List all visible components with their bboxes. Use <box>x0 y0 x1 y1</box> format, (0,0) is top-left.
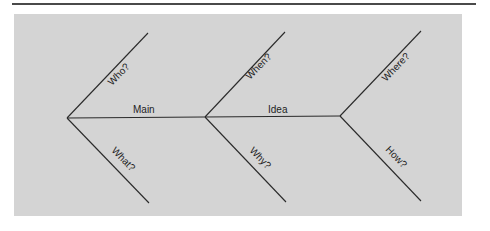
branch-label-where: Where? <box>380 50 413 83</box>
branch-what-line <box>67 118 149 203</box>
branch-label-what: What? <box>110 145 138 174</box>
branch-label-why: Why? <box>248 145 274 171</box>
branch-how-line <box>340 116 421 201</box>
spine-label-main: Main <box>133 104 155 115</box>
branch-why-line <box>205 117 286 202</box>
spine-label-idea: Idea <box>268 104 288 115</box>
fishbone-diagram: Main Idea Who? What? When? Why? Where? H… <box>0 0 490 231</box>
branch-label-when: When? <box>244 51 274 82</box>
main-spine <box>67 116 340 118</box>
